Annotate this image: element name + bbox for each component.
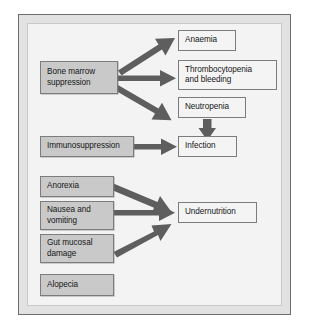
node-immunosuppression[interactable]: Immunosuppression: [40, 136, 134, 157]
node-neutropenia[interactable]: Neutropenia: [178, 97, 246, 118]
arrow-immunosuppression-to-infection: [134, 139, 177, 155]
node-label: Immunosuppression: [47, 141, 120, 152]
node-label: Bone marrow suppression: [47, 67, 95, 88]
node-label: Undernutrition: [185, 207, 236, 218]
node-label: Infection: [185, 141, 216, 152]
node-label: Thrombocytopenia and bleeding: [185, 65, 252, 86]
node-anaemia[interactable]: Anaemia: [178, 30, 236, 51]
node-label: Anaemia: [185, 35, 217, 46]
node-anorexia[interactable]: Anorexia: [40, 176, 114, 197]
node-undernutrition[interactable]: Undernutrition: [178, 202, 257, 223]
arrow-bone-marrow-to-thrombocytopenia: [118, 70, 176, 86]
node-label: Anorexia: [47, 181, 79, 192]
node-infection[interactable]: Infection: [178, 136, 237, 157]
node-label: Neutropenia: [185, 102, 229, 113]
arrow-bone-marrow-to-anaemia: [118, 38, 175, 76]
node-gut-mucosal-damage[interactable]: Gut mucosal damage: [40, 234, 114, 263]
figure-root: Bone marrow suppression Immunosuppressio…: [0, 0, 309, 332]
node-bone-marrow-suppression[interactable]: Bone marrow suppression: [40, 61, 118, 94]
node-nausea-and-vomiting[interactable]: Nausea and vomiting: [40, 201, 114, 230]
arrow-bone-marrow-to-neutropenia: [115, 85, 172, 120]
node-label: Nausea and vomiting: [47, 205, 91, 226]
node-thrombocytopenia-and-bleeding[interactable]: Thrombocytopenia and bleeding: [178, 60, 277, 90]
diagram-canvas: Bone marrow suppression Immunosuppressio…: [0, 0, 309, 332]
arrow-gut-mucosal-to-undernutrition: [114, 224, 172, 258]
node-label: Alopecia: [47, 280, 78, 291]
node-label: Gut mucosal damage: [47, 238, 92, 259]
node-alopecia[interactable]: Alopecia: [40, 274, 114, 296]
